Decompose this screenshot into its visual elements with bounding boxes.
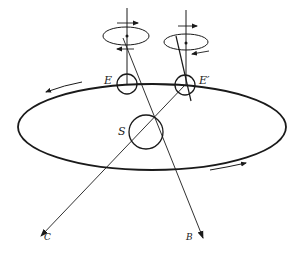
line-to-c <box>41 85 185 236</box>
rotation-arrow-e-prime-bottom-icon <box>192 51 209 54</box>
precession-diagram: E E′ S C B <box>0 0 292 253</box>
label-s: S <box>118 125 126 138</box>
orbit-arrow-right-icon <box>210 163 246 170</box>
earth-e-prime-axis-dot <box>185 42 188 45</box>
sun-circle <box>129 115 163 149</box>
orbit-ellipse <box>18 84 286 170</box>
label-c: C <box>44 232 51 242</box>
label-e-prime: E′ <box>198 74 210 87</box>
earth-e-axis-dot <box>126 35 129 38</box>
label-e: E <box>103 74 112 87</box>
earth-e-prime-tilted-axis <box>176 36 191 101</box>
label-b: B <box>185 232 193 242</box>
